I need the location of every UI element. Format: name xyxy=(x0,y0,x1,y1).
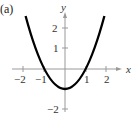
x-axis-arrow-icon xyxy=(116,67,122,71)
x-tick-label: −2 xyxy=(14,74,26,85)
y-axis-label: y xyxy=(61,2,66,13)
y-tick-label: 2 xyxy=(52,23,58,34)
x-axis-label: x xyxy=(126,64,131,75)
y-tick-label: 1 xyxy=(53,43,59,54)
y-tick-label: −2 xyxy=(47,104,59,115)
x-tick-label: 2 xyxy=(104,74,110,85)
x-tick-label: 1 xyxy=(84,74,90,85)
graph xyxy=(0,0,137,116)
x-tick-label: −1 xyxy=(35,74,47,85)
